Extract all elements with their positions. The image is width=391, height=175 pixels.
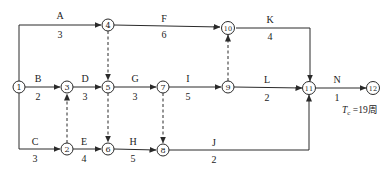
node-label: 8 — [160, 146, 165, 155]
activity-name-K: K — [266, 14, 274, 25]
node-label: 11 — [305, 85, 313, 93]
arrow-K — [236, 28, 310, 81]
arrow-H — [114, 149, 156, 150]
node-6: 6 — [102, 143, 114, 155]
activity-name-E: E — [81, 136, 87, 147]
node-label: 10 — [224, 25, 232, 33]
activity-name-A: A — [56, 10, 64, 21]
activity-duration-A: 3 — [58, 29, 63, 40]
arrow-J — [169, 95, 309, 150]
activity-name-B: B — [35, 73, 42, 84]
node-3: 3 — [61, 81, 73, 93]
node-label: 1 — [16, 83, 21, 92]
node-12: 12 — [367, 82, 380, 95]
activity-name-C: C — [32, 136, 39, 147]
activity-duration-B: 2 — [36, 91, 41, 102]
activity-duration-L: 2 — [265, 92, 270, 103]
node-label: 4 — [105, 21, 110, 30]
activity-duration-F: 6 — [162, 29, 167, 40]
node-label: 5 — [105, 83, 110, 92]
activity-name-J: J — [212, 137, 216, 148]
activity-duration-C: 3 — [33, 153, 38, 164]
node-label: 6 — [105, 145, 110, 154]
node-1: 1 — [13, 81, 25, 93]
activity-duration-N: 1 — [335, 92, 340, 103]
activity-name-H: H — [129, 136, 136, 147]
arrow-F — [114, 25, 220, 27]
activity-duration-E: 4 — [82, 153, 87, 164]
node-8: 8 — [157, 144, 169, 156]
activity-name-L: L — [264, 74, 270, 85]
arrow-L — [234, 87, 302, 88]
network-diagram: A 3 B 2 C 3 D 3 E 4 F 6 G 3 H 5 I 5 J 2 … — [0, 0, 391, 175]
activity-duration-D: 3 — [83, 91, 88, 102]
activity-duration-H: 5 — [131, 153, 136, 164]
total-duration-annotation: Tc =19周 — [342, 105, 378, 117]
node-11: 11 — [303, 82, 316, 95]
activity-duration-I: 5 — [186, 91, 191, 102]
node-4: 4 — [102, 19, 114, 31]
node-label: 2 — [64, 145, 69, 154]
node-label: 7 — [160, 83, 165, 92]
tc-value: =19周 — [350, 105, 377, 115]
activity-name-G: G — [131, 73, 138, 84]
activity-duration-J: 2 — [212, 154, 217, 165]
node-2: 2 — [61, 143, 73, 155]
activity-name-D: D — [81, 73, 88, 84]
node-7: 7 — [157, 81, 169, 93]
activity-name-F: F — [161, 13, 167, 24]
node-9: 9 — [222, 81, 234, 93]
node-5: 5 — [102, 81, 114, 93]
node-label: 3 — [64, 83, 69, 92]
node-label: 12 — [369, 85, 377, 93]
activity-name-N: N — [333, 74, 340, 85]
activity-name-I: I — [186, 73, 189, 84]
activity-duration-G: 3 — [133, 91, 138, 102]
node-label: 9 — [225, 83, 230, 92]
node-10: 10 — [222, 22, 235, 35]
activity-duration-K: 4 — [268, 31, 273, 42]
